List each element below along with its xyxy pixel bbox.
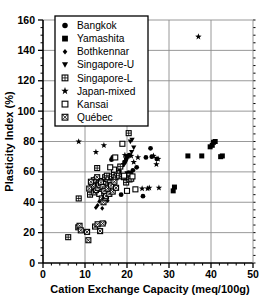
data-point xyxy=(195,33,201,39)
data-point xyxy=(119,192,124,197)
data-point xyxy=(95,175,100,180)
data-point xyxy=(185,153,190,158)
x-tick-label: 50 xyxy=(247,268,259,280)
y-tick-label: 40 xyxy=(23,196,35,208)
data-point xyxy=(153,161,159,167)
data-point xyxy=(135,154,141,160)
data-point xyxy=(101,142,107,148)
legend-label: Singapore-U xyxy=(77,59,134,70)
data-point xyxy=(75,138,81,144)
legend-label: Yamashita xyxy=(77,33,125,44)
legend-label: Japan-mixed xyxy=(77,86,136,97)
legend-label: Bothkennar xyxy=(77,46,130,57)
data-point xyxy=(122,173,127,178)
data-point xyxy=(133,187,138,192)
y-tick-label: 60 xyxy=(23,165,35,177)
legend-marker-crossed-square xyxy=(62,75,68,81)
y-tick-label: 100 xyxy=(17,105,35,117)
data-point xyxy=(100,221,105,226)
x-tick-label: 20 xyxy=(121,268,133,280)
data-point xyxy=(78,228,83,233)
scatter-chart: 02040608010012014016001020304050 Bangkok… xyxy=(0,0,270,305)
data-point xyxy=(131,159,137,165)
data-point xyxy=(76,196,81,201)
data-point xyxy=(131,168,136,173)
data-point xyxy=(134,165,139,170)
y-tick-label: 140 xyxy=(17,44,35,56)
y-tick-label: 160 xyxy=(17,14,35,26)
data-point xyxy=(108,165,113,170)
legend-label: Kansai xyxy=(77,99,108,110)
data-point xyxy=(66,235,71,240)
data-point xyxy=(213,139,218,144)
data-point xyxy=(95,166,100,171)
data-point xyxy=(172,185,177,190)
y-tick-label: 0 xyxy=(29,257,35,269)
x-axis-title: Cation Exchange Capacity (meq/100g) xyxy=(50,283,250,295)
data-point xyxy=(126,131,131,136)
y-tick-label: 20 xyxy=(23,226,35,238)
legend-marker-filled-circle xyxy=(62,23,68,29)
legend-label: Singapore-L xyxy=(77,73,133,84)
data-point xyxy=(98,229,103,234)
data-point xyxy=(86,238,91,243)
x-tick-label: 10 xyxy=(79,268,91,280)
data-point xyxy=(113,155,118,160)
x-tick-label: 0 xyxy=(40,268,46,280)
data-point xyxy=(118,164,123,169)
data-point xyxy=(93,149,99,155)
y-axis-title: Plasticity Index (%) xyxy=(3,91,15,192)
data-point xyxy=(131,145,136,150)
data-point xyxy=(85,229,90,234)
x-tick-label: 30 xyxy=(163,268,175,280)
y-tick-label: 120 xyxy=(17,74,35,86)
legend-marker-open-square xyxy=(62,101,68,107)
data-point xyxy=(87,186,92,191)
data-point xyxy=(148,146,153,151)
data-point xyxy=(220,153,225,158)
data-point xyxy=(125,188,130,193)
data-point xyxy=(141,194,146,199)
data-point xyxy=(114,185,119,190)
data-point xyxy=(88,179,93,184)
legend-label: Québec xyxy=(77,112,113,123)
legend-marker-filled-square xyxy=(62,36,68,42)
y-tick-label: 80 xyxy=(23,135,35,147)
series-yamashita xyxy=(171,139,225,193)
data-point xyxy=(120,141,125,146)
data-point xyxy=(130,174,135,179)
data-point xyxy=(199,153,204,158)
data-point xyxy=(112,179,117,184)
data-point xyxy=(95,222,100,227)
data-point xyxy=(139,185,145,191)
legend-marker-boxed-x-square xyxy=(62,114,68,120)
data-point xyxy=(100,206,104,211)
x-tick-label: 40 xyxy=(205,268,217,280)
legend[interactable]: BangkokYamashitaBothkennarSingapore-USin… xyxy=(55,16,148,126)
legend-label: Bangkok xyxy=(77,20,118,31)
plot-svg: 02040608010012014016001020304050 Bangkok… xyxy=(0,0,270,305)
data-point xyxy=(144,155,149,160)
data-point xyxy=(156,184,162,190)
